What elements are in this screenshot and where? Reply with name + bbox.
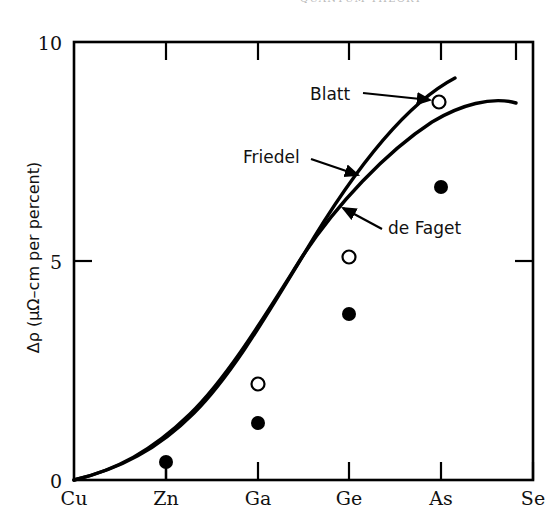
leader-arrow-friedel xyxy=(311,159,358,175)
leader-arrow-blatt xyxy=(363,93,430,100)
data-point-open-ge xyxy=(343,251,356,264)
data-point-filled-as xyxy=(434,180,448,194)
data-point-filled-ge xyxy=(342,307,356,321)
curve-friedel xyxy=(74,78,455,480)
curve-de-faget xyxy=(74,101,516,480)
data-point-open-ga xyxy=(252,378,265,391)
series-open-circles xyxy=(252,96,446,391)
data-point-filled-zn xyxy=(159,455,173,469)
data-point-open-as xyxy=(433,96,446,109)
leader-arrow-de-faget xyxy=(343,208,382,229)
series-filled-circles xyxy=(159,180,448,480)
figure-quantum-theory-resistivity: QUANTUM THEORY Δρ (μΩ–cm per percent) 10… xyxy=(0,0,553,529)
data-point-filled-ga xyxy=(251,416,265,430)
plot-canvas xyxy=(0,0,553,529)
